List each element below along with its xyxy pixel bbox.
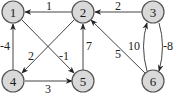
node-label-4: 4	[10, 74, 17, 89]
edge-weight-4-1: -4	[0, 39, 10, 53]
node-label-2: 2	[80, 5, 87, 20]
edge-weight-3-2: 2	[115, 0, 121, 13]
graph-diagram: 1 2 -4 -1 2 7 3 5 10 -8 1 2	[0, 0, 176, 94]
edge-weight-2-4: 2	[28, 49, 34, 63]
edge-2-to-1: 1	[25, 0, 72, 13]
edge-4-to-5: 3	[25, 81, 72, 94]
node-6: 6	[142, 70, 164, 92]
edge-6-to-3: 10	[128, 23, 147, 71]
node-4: 4	[2, 70, 24, 92]
node-2: 2	[72, 1, 94, 23]
edge-3-to-2: 2	[95, 0, 142, 13]
edge-weight-2-1: 1	[46, 0, 52, 13]
edge-weight-4-5: 3	[45, 82, 51, 94]
edge-weight-1-5: -1	[59, 49, 69, 63]
node-label-3: 3	[150, 5, 157, 20]
node-label-1: 1	[10, 5, 17, 20]
edge-weight-3-6: -8	[163, 39, 173, 53]
edge-3-to-6: -8	[159, 23, 173, 71]
edge-weight-6-2: 5	[115, 47, 121, 61]
edge-4-to-1: -4	[0, 24, 13, 70]
node-3: 3	[142, 1, 164, 23]
node-label-6: 6	[150, 74, 157, 89]
node-1: 1	[2, 1, 24, 23]
edge-5-to-2: 7	[83, 24, 92, 70]
node-5: 5	[72, 70, 94, 92]
edge-weight-6-3: 10	[128, 39, 140, 53]
edge-weight-5-2: 7	[86, 39, 92, 53]
node-label-5: 5	[80, 74, 87, 89]
